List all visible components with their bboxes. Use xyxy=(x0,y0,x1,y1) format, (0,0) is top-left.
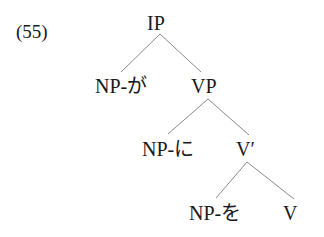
node-vp: VP xyxy=(191,76,217,96)
edge-ip-vp xyxy=(160,34,201,72)
edge-vp-vbar xyxy=(208,99,249,135)
tree-edges xyxy=(0,0,324,237)
node-np-wo: NP-を xyxy=(189,203,241,223)
edge-vbar-v xyxy=(247,162,294,199)
edge-vbar-np-wo xyxy=(216,162,247,198)
example-number: (55) xyxy=(16,22,48,42)
node-v: V xyxy=(283,203,297,223)
node-ip: IP xyxy=(147,13,165,33)
node-np-ni: NP-に xyxy=(142,139,194,159)
node-np-ga: NP-が xyxy=(95,76,147,96)
edge-ip-np-ga xyxy=(121,34,160,72)
node-vbar: V′ xyxy=(236,139,255,159)
edge-vp-np-ni xyxy=(168,99,208,134)
